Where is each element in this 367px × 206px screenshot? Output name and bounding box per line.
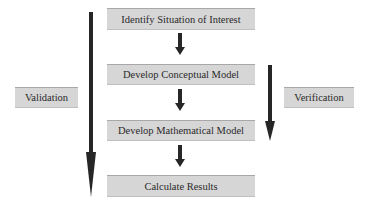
step-conceptual-model: Develop Conceptual Model — [107, 64, 255, 85]
step-mathematical-model: Develop Mathematical Model — [107, 120, 255, 141]
step-identify-situation: Identify Situation of Interest — [107, 8, 255, 30]
flow-arrow-2 — [175, 89, 185, 111]
validation-label: Validation — [15, 87, 78, 108]
flow-arrow-1 — [175, 33, 185, 55]
step-calculate-results: Calculate Results — [107, 175, 255, 197]
flow-arrow-3 — [175, 145, 185, 167]
verification-arrow — [265, 65, 275, 141]
validation-arrow — [86, 12, 96, 197]
verification-label: Verification — [284, 87, 354, 108]
